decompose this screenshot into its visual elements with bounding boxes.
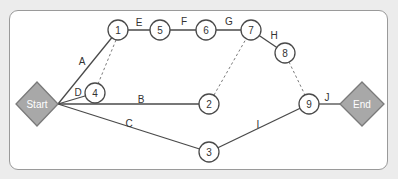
activity-label-a: A (79, 56, 86, 67)
node-number: 5 (157, 25, 163, 36)
diagram-stage: ABCDEFGHIJ StartEnd 123456789 (0, 0, 398, 179)
node-number: 3 (206, 147, 212, 158)
end-terminal: End (340, 82, 384, 126)
activity-edge-c (58, 104, 209, 152)
network-diagram: ABCDEFGHIJ StartEnd 123456789 (0, 0, 398, 179)
event-node-3: 3 (199, 142, 219, 162)
node-number: 7 (248, 25, 254, 36)
activity-label-c: C (125, 118, 132, 129)
activity-label-g: G (225, 16, 233, 27)
start-label: Start (26, 99, 47, 110)
node-number: 8 (282, 48, 288, 59)
node-number: 2 (206, 99, 212, 110)
event-node-7: 7 (241, 20, 261, 40)
end-label: End (353, 99, 371, 110)
dummy-activities (98, 39, 305, 95)
dummy-activity-n2-n7 (214, 39, 246, 95)
start-terminal: Start (16, 82, 58, 126)
event-node-6: 6 (196, 20, 216, 40)
node-number: 9 (306, 99, 312, 110)
activity-label-h: H (270, 30, 277, 41)
event-node-2: 2 (199, 94, 219, 114)
event-node-4: 4 (85, 83, 105, 103)
event-nodes: 123456789 (85, 20, 319, 162)
node-number: 1 (115, 25, 121, 36)
activity-label-i: I (257, 119, 260, 130)
node-number: 4 (92, 88, 98, 99)
activity-label-f: F (181, 16, 187, 27)
activity-label-b: B (138, 94, 145, 105)
node-number: 6 (203, 25, 209, 36)
event-node-9: 9 (299, 94, 319, 114)
event-node-8: 8 (275, 43, 295, 63)
dummy-activity-n8-n9 (289, 62, 305, 95)
event-node-5: 5 (150, 20, 170, 40)
event-node-1: 1 (108, 20, 128, 40)
activity-label-e: E (136, 17, 143, 28)
activity-label-j: J (325, 92, 330, 103)
activity-label-d: D (74, 87, 81, 98)
dummy-activity-n4-n1 (98, 40, 116, 84)
